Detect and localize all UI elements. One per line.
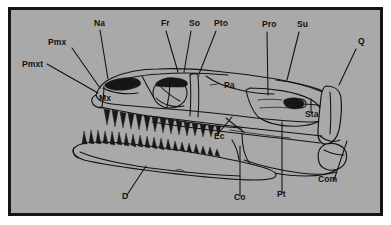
leader-line-na: [100, 30, 108, 79]
lower-jaw-group: [73, 140, 347, 180]
leader-line-q: [339, 49, 356, 85]
leader-line-so: [184, 31, 191, 72]
label-com: Com: [318, 174, 338, 184]
label-mx: Mx: [99, 93, 111, 103]
label-pto: Pto: [214, 18, 228, 28]
leader-line-d: [127, 166, 146, 195]
leader-line-fr: [166, 31, 178, 72]
compound-bone-outline: [318, 143, 346, 170]
label-pmx: Pmx: [48, 37, 66, 47]
label-na: Na: [94, 18, 105, 28]
leader-line-pmx: [72, 48, 100, 88]
label-pa: Pa: [224, 80, 235, 90]
skull-diagram: PmxtPmxNaFrSoPtoProSuQPfrMxPaStaEcDCoPtC…: [0, 0, 391, 225]
label-pro: Pro: [262, 19, 276, 29]
label-pt: Pt: [277, 189, 286, 199]
figure-root: PmxtPmxNaFrSoPtoProSuQPfrMxPaStaEcDCoPtC…: [0, 0, 391, 225]
label-pmxt: Pmxt: [22, 59, 43, 69]
leader-line-su: [287, 32, 299, 80]
label-pfr: Pfr: [121, 79, 134, 89]
leader-line-pto: [199, 31, 216, 74]
label-su: Su: [297, 19, 308, 29]
leader-line-pmxt: [47, 64, 98, 93]
label-sta: Sta: [305, 109, 319, 119]
label-so: So: [189, 18, 200, 28]
label-co: Co: [234, 192, 246, 202]
label-q: Q: [358, 36, 365, 46]
coronoid-process: [232, 140, 239, 160]
label-d: D: [122, 191, 128, 201]
label-ec: Ec: [214, 131, 225, 141]
ectopterygoid: [226, 118, 244, 132]
label-fr: Fr: [161, 18, 170, 28]
